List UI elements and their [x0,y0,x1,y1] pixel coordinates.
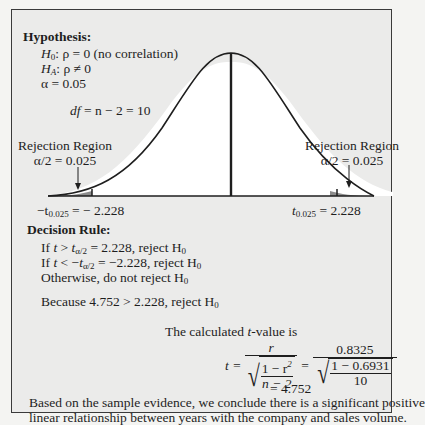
numeric-fraction: 0.8325 √ 1 − 0.6931 10 [313,342,397,388]
decision-rule-otherwise: Otherwise, do not reject H0 [41,270,188,285]
t-statistic-result: = 4.752 [270,381,311,396]
left-critical-value: −t0.025 = − 2.228 [37,203,124,218]
curve-body-fill [44,62,393,196]
right-rejection-title: Rejection Region [296,138,408,153]
decision-rule-heading: Decision Rule: [27,222,111,237]
decision-because: Because 4.752 > 2.228, reject H0 [41,294,219,309]
right-critical-value: t0.025 = 2.228 [292,203,361,218]
decision-rule-lower: If t < −tα/2 = −2.228, reject H0 [41,255,201,270]
hypothesis-test-panel: Hypothesis: H0: ρ = 0 (no correlation) H… [11,9,392,413]
conclusion-line-2: linear relationship between years with t… [29,410,407,425]
left-rejection-title: Rejection Region [9,138,121,153]
decision-rule-upper: If t > tα/2 = 2.228, reject H0 [41,240,186,255]
t-distribution-curve [12,10,393,210]
left-rejection-alpha: α/2 = 0.025 [9,153,121,168]
conclusion-line-1: Based on the sample evidence, we conclud… [29,395,425,410]
right-rejection-alpha: α/2 = 0.025 [296,153,408,168]
calculation-intro: The calculated t-value is [165,324,297,339]
